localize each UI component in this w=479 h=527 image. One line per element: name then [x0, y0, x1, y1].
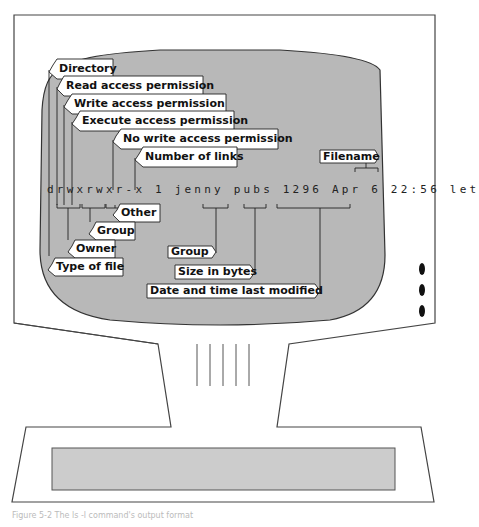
group-field: pubs: [234, 183, 273, 196]
size-field: 1296: [283, 183, 322, 196]
label-owner: Owner: [76, 242, 116, 256]
indicator-dot: [419, 305, 425, 317]
label-read-permission: Read access permission: [66, 79, 214, 93]
date-field: Apr 6 22:56: [332, 183, 440, 196]
label-date-modified: Date and time last modified: [150, 284, 323, 298]
label-execute-permission: Execute access permission: [82, 114, 248, 128]
links-field: 1: [155, 183, 165, 196]
label-type-of-file: Type of file: [56, 260, 124, 274]
label-no-write-permission: No write access permission: [123, 132, 293, 146]
label-other: Other: [121, 206, 156, 220]
label-group: Group: [171, 245, 209, 259]
indicator-dot: [419, 284, 425, 296]
owner-field: jenny: [175, 183, 224, 196]
figure-caption: Figure 5-2 The ls -l command's output fo…: [12, 511, 193, 520]
filename-field: let: [450, 183, 479, 196]
label-size-in-bytes: Size in bytes: [178, 265, 257, 279]
label-group-permission: Group: [97, 224, 135, 238]
base-panel: [52, 448, 395, 490]
permissions-field: drwxrwxr-x: [47, 183, 145, 196]
label-directory: Directory: [59, 62, 117, 76]
label-number-of-links: Number of links: [145, 150, 244, 164]
ls-output-line: drwxrwxr-x 1 jenny pubs 1296 Apr 6 22:56…: [47, 183, 479, 196]
indicator-dot: [419, 263, 425, 275]
label-write-permission: Write access permission: [74, 97, 225, 111]
label-filename: Filename: [323, 150, 380, 164]
